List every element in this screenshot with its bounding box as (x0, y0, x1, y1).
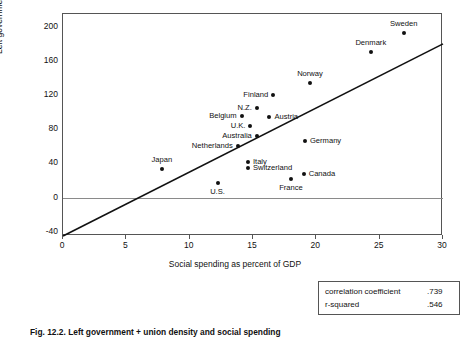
statistic-value: .739 (427, 285, 453, 298)
data-point-label: Canada (309, 170, 336, 178)
x-tick-label: 5 (110, 240, 140, 250)
data-point-label: Switzerland (253, 164, 292, 172)
figure-caption: Fig. 12.2. Left government + union densi… (30, 327, 440, 337)
data-point-label: Austria (274, 114, 298, 122)
data-point-label: Germany (310, 137, 341, 145)
data-point-label: Australia (222, 132, 252, 140)
data-point (289, 177, 293, 181)
statistic-value: .546 (427, 298, 453, 311)
scatter-plot-area: SwedenDenmarkNorwayFinlandN.Z.BelgiumAus… (62, 13, 442, 235)
data-point-label: U.S. (210, 188, 225, 196)
figure-container: Left government+union density 2001601208… (0, 0, 470, 339)
x-tick-label: 25 (364, 240, 394, 250)
data-point-label: Norway (297, 71, 323, 79)
data-point-label: Denmark (355, 40, 386, 48)
x-axis-title: Social spending as percent of GDP (0, 259, 470, 269)
caption-text: Left government + union density and soci… (68, 327, 280, 337)
statistic-name: correlation coefficient (325, 285, 400, 298)
caption-label: Fig. 12.2. (30, 327, 66, 337)
data-point (216, 181, 220, 185)
data-point-label: Sweden (390, 20, 417, 28)
data-point (402, 31, 406, 35)
x-tick-label: 10 (174, 240, 204, 250)
x-tick-label: 20 (300, 240, 330, 250)
data-point (246, 160, 250, 164)
statistics-row: correlation coefficient.739 (325, 285, 453, 298)
data-point (255, 134, 259, 138)
statistic-name: r-squared (325, 298, 359, 311)
data-point-label: Japan (151, 157, 172, 165)
data-point-label: U.K. (231, 122, 246, 130)
x-tick-label: 30 (427, 240, 457, 250)
data-point-label: N.Z. (237, 104, 251, 112)
data-point-label: Finland (243, 91, 268, 99)
statistics-box: correlation coefficient.739r-squared.546 (318, 281, 460, 315)
data-point (255, 106, 259, 110)
statistics-row: r-squared.546 (325, 298, 453, 311)
x-tick-label: 0 (47, 240, 77, 250)
x-tick-label: 15 (237, 240, 267, 250)
data-point (246, 166, 250, 170)
data-point (302, 172, 306, 176)
data-point-label: Belgium (209, 113, 236, 121)
data-point-label: Netherlands (192, 143, 233, 151)
data-point-label: France (279, 184, 303, 192)
